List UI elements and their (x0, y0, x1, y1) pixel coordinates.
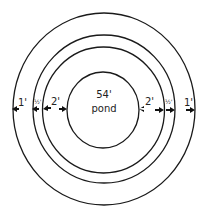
pond-name-label: pond (91, 103, 116, 114)
label-left-2ft: 2' (51, 96, 60, 107)
label-right-2ft: 2' (145, 96, 154, 107)
label-right-1ft: 1' (184, 97, 193, 108)
arrow-icon (166, 107, 175, 113)
pond-size-label: 54' (96, 89, 111, 100)
label-left-1ft: 1' (18, 97, 27, 108)
arrow-icon (139, 106, 144, 112)
arrow-icon (155, 107, 164, 113)
label-right-halfft: ½' (165, 98, 173, 105)
label-left-halfft: ½' (34, 98, 42, 105)
arrow-icon (59, 106, 67, 112)
pond-diagram: 1' ½' 2' 2' ½' 1' 54' pond (0, 0, 208, 218)
arrow-icon (43, 105, 51, 111)
